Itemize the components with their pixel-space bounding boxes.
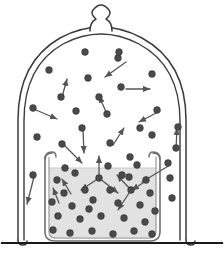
vapor-particle bbox=[165, 160, 172, 167]
liquid-particle bbox=[69, 203, 76, 210]
vapor-particle bbox=[154, 107, 161, 114]
vapor-particle bbox=[34, 134, 41, 141]
liquid-particle bbox=[61, 190, 68, 197]
liquid-particle bbox=[96, 175, 103, 182]
liquid-particle bbox=[119, 172, 126, 179]
vapor-particle bbox=[46, 67, 53, 74]
vapor-particle bbox=[73, 108, 80, 115]
vapor-particle bbox=[137, 125, 144, 132]
vapor-particle bbox=[149, 132, 156, 139]
vapor-particle bbox=[59, 141, 66, 148]
liquid-particle bbox=[131, 228, 138, 235]
liquid-particle bbox=[149, 231, 156, 238]
beaker bbox=[45, 152, 160, 241]
liquid-particle bbox=[62, 165, 69, 172]
vapor-particle bbox=[149, 71, 156, 78]
vapor-particle bbox=[30, 105, 37, 112]
liquid-particle bbox=[115, 200, 122, 207]
figure-canvas bbox=[0, 0, 224, 263]
liquid-particle bbox=[67, 230, 74, 237]
liquid-particle bbox=[105, 163, 112, 170]
vapor-particle bbox=[169, 195, 176, 202]
liquid-particle bbox=[49, 199, 56, 206]
liquid-particle bbox=[72, 170, 79, 177]
liquid-particle bbox=[137, 202, 144, 209]
liquid-particle bbox=[77, 216, 84, 223]
liquid-particle bbox=[121, 215, 128, 222]
vapor-particle bbox=[107, 140, 114, 147]
vapor-particle bbox=[173, 145, 180, 152]
vapor-particle bbox=[175, 124, 182, 131]
liquid-particle bbox=[90, 197, 97, 204]
liquid-particle bbox=[50, 227, 57, 234]
vapor-particle bbox=[127, 154, 134, 161]
liquid-particle bbox=[89, 228, 96, 235]
liquid-particle bbox=[152, 208, 159, 215]
vapor-particle bbox=[85, 75, 92, 82]
liquid-particle bbox=[134, 162, 141, 169]
vapor-particle bbox=[58, 94, 65, 101]
vapor-particle bbox=[82, 49, 89, 56]
liquid-particle bbox=[86, 206, 93, 213]
liquid-particle bbox=[54, 177, 61, 184]
liquid-particle bbox=[126, 174, 133, 181]
vapor-particle bbox=[118, 84, 125, 91]
vapor-particle bbox=[104, 111, 111, 118]
liquid-particle bbox=[147, 190, 154, 197]
liquid-particle bbox=[107, 187, 114, 194]
vapor-particle bbox=[167, 175, 174, 182]
liquid-particle bbox=[142, 219, 149, 226]
liquid-particle bbox=[110, 231, 117, 238]
liquid-particle bbox=[128, 187, 135, 194]
liquid-particle bbox=[82, 187, 89, 194]
liquid-particle bbox=[98, 213, 105, 220]
liquid-particle bbox=[55, 213, 62, 220]
vapor-particle bbox=[30, 172, 37, 179]
vapor-particle bbox=[96, 94, 103, 101]
bell-jar-diagram bbox=[0, 0, 224, 263]
vapor-particle bbox=[116, 49, 123, 56]
vapor-particle bbox=[79, 125, 86, 132]
liquid-particle bbox=[143, 177, 150, 184]
vapor-particle bbox=[115, 55, 122, 62]
